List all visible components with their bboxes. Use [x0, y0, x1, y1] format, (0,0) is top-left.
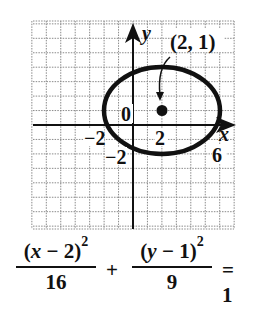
x-term-fraction: (x − 2)2 16 — [16, 238, 96, 295]
x-tick-neg2: −2 — [84, 127, 105, 149]
center-point — [157, 105, 168, 116]
x-axis-label: x — [218, 123, 229, 145]
equals-one: = 1 — [222, 258, 234, 308]
origin-label: 0 — [121, 103, 131, 125]
y-tick-neg2: −2 — [105, 146, 126, 168]
x-term-denominator: 16 — [16, 268, 96, 295]
y-term-denominator: 9 — [132, 268, 212, 295]
ellipse-graph: (2, 1) y x 0 −2 2 6 −2 — [0, 0, 258, 235]
plus-sign: + — [106, 258, 118, 283]
x-term-numerator: (x − 2)2 — [16, 238, 96, 268]
x-tick-2: 2 — [155, 127, 165, 149]
callout-arrow — [159, 57, 170, 95]
y-term-fraction: (y − 1)2 9 — [132, 238, 212, 295]
x-tick-6: 6 — [212, 144, 222, 166]
y-term-numerator: (y − 1)2 — [132, 238, 212, 268]
center-label: (2, 1) — [170, 30, 216, 54]
y-axis-label: y — [140, 22, 151, 45]
